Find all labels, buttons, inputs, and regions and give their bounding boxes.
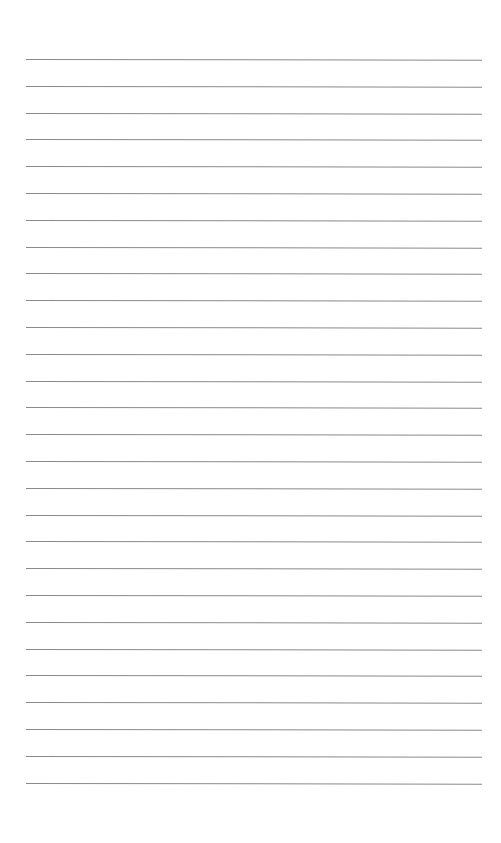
ruled-line	[26, 354, 482, 356]
ruled-line	[26, 622, 482, 624]
ruled-line	[26, 273, 482, 275]
ruled-line	[26, 139, 482, 141]
ruled-line	[26, 649, 482, 651]
ruled-line	[26, 702, 482, 704]
ruled-line	[26, 220, 482, 222]
ruled-line	[26, 461, 482, 463]
ruled-line	[26, 86, 482, 88]
ruled-line	[26, 515, 482, 517]
ruled-line	[26, 675, 482, 677]
ruled-line	[26, 59, 482, 61]
ruled-line	[26, 568, 482, 570]
ruled-line	[26, 729, 482, 731]
ruled-line	[26, 488, 482, 490]
lined-paper-page	[0, 0, 501, 843]
ruled-line	[26, 434, 482, 436]
ruled-line	[26, 783, 482, 785]
ruled-line	[26, 193, 482, 195]
ruled-line	[26, 300, 482, 302]
ruled-line	[26, 756, 482, 758]
ruled-line	[26, 247, 482, 249]
ruled-line	[26, 381, 482, 383]
ruled-line	[26, 541, 482, 543]
ruled-line	[26, 166, 482, 168]
ruled-line	[26, 595, 482, 597]
ruled-line	[26, 113, 482, 115]
ruled-line	[26, 407, 482, 409]
ruled-line	[26, 327, 482, 329]
